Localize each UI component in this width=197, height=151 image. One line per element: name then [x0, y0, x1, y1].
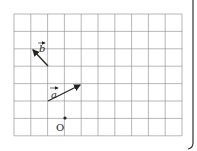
right-bracket: [188, 0, 193, 149]
vector-b-label: b: [38, 43, 45, 54]
origin-label: O: [56, 122, 64, 133]
vector-diagram: b a O: [0, 0, 197, 151]
svg-text:b: b: [39, 43, 45, 54]
grid: [14, 14, 182, 136]
vector-a-label: a: [50, 88, 58, 100]
svg-text:a: a: [51, 89, 57, 100]
origin-point: [63, 116, 66, 119]
